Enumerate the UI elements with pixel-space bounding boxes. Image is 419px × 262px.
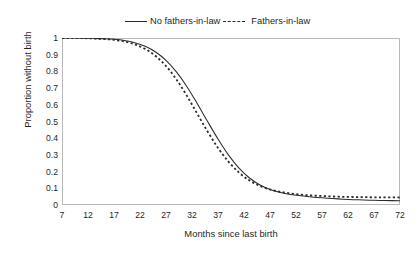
y-tick-label: 0.2 [46,167,58,177]
y-tick-label: 0.8 [46,66,58,76]
x-tick-label: 47 [265,210,275,220]
x-tick-label: 37 [213,210,223,220]
y-tick-label: 0.3 [46,150,58,160]
plot-curves [62,38,400,205]
x-tick-label: 7 [60,210,65,220]
y-tick-label: 0.6 [46,100,58,110]
x-tick-label: 62 [343,210,353,220]
y-tick-label: 0.1 [46,183,58,193]
legend-entry-no-fathers-in-law: No fathers-in-law [125,16,220,26]
survival-curve-chart: No fathers-in-law Fathers-in-law 00.10.2… [0,0,419,262]
x-tick-label: 22 [135,210,145,220]
y-axis-title: Proportion without birth [22,5,33,155]
y-tick-label: 0.7 [46,83,58,93]
legend-label-fathers-in-law: Fathers-in-law [251,16,310,26]
y-tick-label: 0.4 [46,133,58,143]
y-axis-tick-labels: 00.10.20.30.40.50.60.70.80.91 [30,32,58,211]
legend-entry-fathers-in-law: Fathers-in-law [220,16,310,26]
x-tick-label: 57 [317,210,327,220]
x-tick-label: 67 [369,210,379,220]
legend-label-no-fathers-in-law: No fathers-in-law [150,16,220,26]
x-tick-label: 32 [187,210,197,220]
x-axis-tick-labels: 712172227323742475257626772 [62,210,400,222]
chart-legend: No fathers-in-law Fathers-in-law [125,13,310,29]
x-axis-title: Months since last birth [62,228,400,239]
series-line-fathers-in-law [62,38,400,197]
series-line-no-fathers-in-law [62,38,400,201]
dashed-line-swatch-icon [223,21,245,22]
x-tick-label: 72 [395,210,405,220]
y-tick-label: 0.5 [46,117,58,127]
solid-line-swatch-icon [125,21,147,22]
x-tick-label: 42 [239,210,249,220]
y-tick-label: 0.9 [46,50,58,60]
x-tick-label: 12 [83,210,93,220]
y-tick-label: 1 [53,33,58,43]
x-tick-label: 27 [161,210,171,220]
x-tick-label: 52 [291,210,301,220]
x-tick-label: 17 [109,210,119,220]
y-tick-label: 0 [53,200,58,210]
